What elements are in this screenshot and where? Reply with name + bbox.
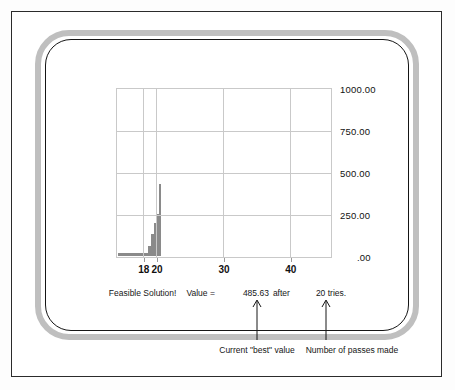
status-value: 485.63 (243, 288, 269, 298)
x-axis-tick-mark (224, 258, 225, 262)
status-message: Feasible Solution! (109, 288, 177, 298)
y-axis-tick-label: .00 (357, 252, 371, 263)
gridline-vertical (223, 89, 224, 257)
histogram-chart (116, 88, 332, 258)
gridline-horizontal (117, 131, 331, 132)
x-axis-tick-label: 20 (152, 264, 163, 275)
gridline-horizontal (117, 173, 331, 174)
y-axis-tick-label: 500.00 (340, 168, 370, 179)
histogram-bar (159, 184, 162, 256)
x-axis-tick-label: 18 (138, 264, 149, 275)
gridline-horizontal (117, 215, 331, 216)
y-axis-tick-label: 250.00 (340, 210, 370, 221)
caption-current-best-value: Current "best" value (219, 345, 295, 355)
plot-area (116, 88, 332, 258)
status-tries: 20 tries. (316, 288, 346, 298)
status-after-word: after (273, 288, 290, 298)
status-value-label: Value = (186, 288, 214, 298)
x-axis-tick-label: 30 (218, 264, 229, 275)
gridline-vertical (156, 89, 157, 257)
y-axis-tick-label: 1000.00 (340, 84, 376, 95)
gridline-vertical (290, 89, 291, 257)
x-axis-tick-mark (144, 258, 145, 262)
gridline-vertical (143, 89, 144, 257)
caption-number-of-passes: Number of passes made (306, 345, 399, 355)
screenshot-root: 1000.00750.00500.00250.00.0018203040 Fea… (0, 0, 455, 390)
x-axis-tick-label: 40 (285, 264, 296, 275)
x-axis-tick-mark (157, 258, 158, 262)
status-line: Feasible Solution!Value =485.63after20 t… (0, 288, 455, 298)
y-axis-tick-label: 750.00 (340, 126, 370, 137)
x-axis-tick-mark (291, 258, 292, 262)
